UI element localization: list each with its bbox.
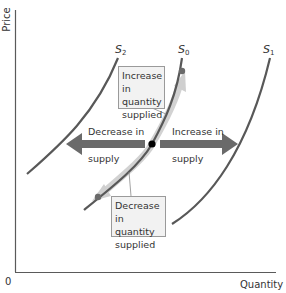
upper-point-on-s0: [179, 68, 185, 74]
increase-quantity-supplied-box: Increase in quantity supplied: [118, 66, 165, 109]
decrease-qs-line3: supplied: [115, 238, 162, 251]
increase-supply-label-line1: Increase in: [172, 126, 224, 137]
increase-supply-label-line2: supply: [172, 153, 203, 164]
curve-label-s2-sub: 2: [122, 49, 126, 57]
lower-point-on-s0: [95, 194, 101, 200]
origin-label: 0: [5, 276, 11, 287]
decrease-supply-label-line1: Decrease in: [88, 126, 144, 137]
curve-label-s1-sub: 1: [270, 49, 274, 57]
curve-label-s2: S2: [115, 43, 126, 57]
curve-label-s1-main: S: [263, 43, 270, 56]
increase-qs-line2: quantity: [122, 95, 161, 108]
curve-label-s0-sub: 0: [185, 49, 189, 57]
decrease-qs-line2: quantity: [115, 225, 162, 238]
decrease-quantity-supplied-box: Decrease in quantity supplied: [111, 196, 166, 237]
decrease-qs-line1: Decrease in: [115, 199, 162, 225]
curve-label-s2-main: S: [115, 43, 122, 56]
curve-label-s0-main: S: [178, 43, 185, 56]
equilibrium-point: [148, 140, 155, 147]
y-axis-title: Price: [1, 7, 12, 31]
curve-label-s1: S1: [263, 43, 274, 57]
decrease-supply-label-line2: supply: [88, 153, 119, 164]
x-axis-title: Quantity: [240, 279, 283, 290]
leader-line-decrease-qs: [129, 172, 131, 196]
increase-qs-line1: Increase in: [122, 69, 161, 95]
supply-diagram: Price 0 Quantity S2 S0 S1 Increase in qu…: [0, 0, 286, 293]
increase-qs-line3: supplied: [122, 108, 161, 121]
curve-label-s0: S0: [178, 43, 189, 57]
